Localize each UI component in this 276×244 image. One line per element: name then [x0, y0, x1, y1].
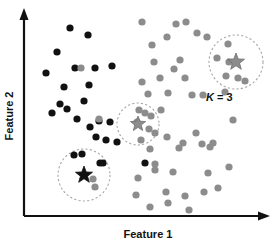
data-point — [89, 175, 96, 182]
data-point — [80, 97, 87, 104]
x-axis-arrowhead — [258, 212, 270, 221]
data-point — [193, 29, 200, 36]
data-point — [234, 74, 241, 81]
data-point — [203, 33, 210, 40]
data-point — [134, 174, 141, 181]
data-point — [209, 139, 216, 146]
data-point — [84, 31, 91, 38]
plot-canvas: K = 3 Feature 1 Feature 2 — [0, 0, 276, 244]
data-point — [138, 78, 145, 85]
data-point — [224, 40, 231, 47]
y-axis-arrowhead — [20, 8, 29, 20]
data-point — [141, 159, 148, 166]
data-point — [192, 129, 199, 136]
data-point — [53, 48, 60, 55]
data-point — [91, 183, 98, 190]
data-point — [151, 166, 158, 173]
data-point — [137, 136, 144, 143]
data-point — [132, 191, 139, 198]
y-axis-label: Feature 2 — [3, 92, 15, 141]
data-point — [241, 77, 248, 84]
data-point — [225, 163, 232, 170]
data-point — [163, 33, 170, 40]
data-point — [70, 151, 77, 158]
data-point — [157, 106, 164, 113]
data-point — [148, 41, 155, 48]
k-value-annotation: K = 3 — [206, 91, 233, 103]
data-point — [145, 125, 152, 132]
data-point — [138, 18, 145, 25]
data-point — [95, 115, 102, 122]
data-point — [85, 81, 92, 88]
data-point — [113, 138, 120, 145]
data-point — [170, 65, 177, 72]
data-point — [164, 199, 171, 206]
data-point — [48, 109, 55, 116]
data-point — [151, 129, 158, 136]
data-point — [78, 150, 85, 157]
data-point — [60, 83, 67, 90]
k-equals-value: = 3 — [214, 91, 233, 103]
data-point — [198, 140, 205, 147]
data-point — [188, 91, 195, 98]
data-point — [108, 62, 115, 69]
data-point — [181, 74, 188, 81]
data-point — [86, 123, 93, 130]
data-point — [204, 169, 211, 176]
data-point — [63, 105, 70, 112]
x-axis-label: Feature 1 — [124, 228, 173, 240]
data-point — [213, 54, 220, 61]
data-point — [66, 24, 73, 31]
data-point — [181, 192, 188, 199]
data-point — [185, 206, 192, 213]
data-point — [56, 100, 63, 107]
data-point — [102, 136, 109, 143]
data-point — [144, 90, 151, 97]
data-point — [91, 64, 98, 71]
data-point — [77, 64, 84, 71]
data-point — [106, 118, 113, 125]
scatter-plot-figure: K = 3 Feature 1 Feature 2 — [0, 0, 276, 244]
data-points-group — [42, 18, 248, 213]
data-point — [176, 56, 183, 63]
data-point — [172, 20, 179, 27]
data-point — [42, 69, 49, 76]
data-point — [146, 203, 153, 210]
data-point — [182, 18, 189, 25]
data-point — [92, 133, 99, 140]
data-point — [214, 184, 221, 191]
data-point — [229, 116, 236, 123]
data-point — [163, 133, 170, 140]
centroid-star-icon — [130, 116, 145, 130]
data-point — [164, 89, 171, 96]
data-point — [162, 188, 169, 195]
data-point — [96, 159, 103, 166]
data-point — [156, 74, 163, 81]
data-point — [200, 188, 207, 195]
data-point — [73, 115, 80, 122]
centroid-star-icon — [227, 53, 244, 69]
data-point — [146, 145, 153, 152]
data-point — [222, 72, 229, 79]
data-point — [169, 168, 176, 175]
data-point — [175, 144, 182, 151]
data-point — [150, 58, 157, 65]
data-point — [135, 106, 142, 113]
